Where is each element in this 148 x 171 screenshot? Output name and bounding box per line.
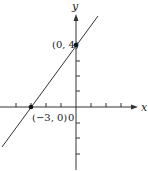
chart: y x (0, 4) (−3, 0) 0 — [0, 0, 148, 171]
y-axis-arrow-icon — [74, 14, 79, 21]
x-axis-label: x — [141, 101, 148, 114]
x-axis-arrow-icon — [131, 105, 138, 110]
y-axis-label: y — [71, 0, 79, 13]
graph-line — [2, 16, 98, 147]
point-x-intercept — [29, 105, 34, 110]
origin-label: 0 — [68, 112, 74, 123]
point-label-x-intercept: (−3, 0) — [32, 112, 67, 123]
point-label-y-intercept: (0, 4) — [52, 39, 79, 50]
